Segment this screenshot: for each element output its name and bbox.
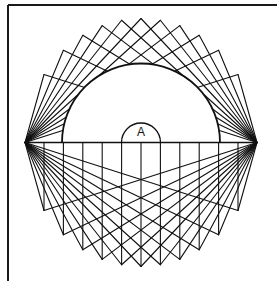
ray-right-lower bbox=[160, 143, 257, 265]
vertical-lines bbox=[44, 143, 238, 267]
ray-right-lower bbox=[122, 143, 257, 265]
ray-left-lower bbox=[25, 143, 199, 250]
ray-right-lower bbox=[83, 143, 257, 250]
ray-left-lower bbox=[25, 143, 160, 265]
ray-left-upper bbox=[25, 35, 199, 142]
diagram-frame: A bbox=[0, 0, 277, 281]
geometric-construction-diagram: A bbox=[0, 0, 277, 281]
ray-left-upper bbox=[25, 20, 122, 142]
ray-right-upper bbox=[83, 35, 257, 142]
ray-left-upper bbox=[25, 26, 180, 143]
ray-left-upper bbox=[25, 35, 83, 142]
ray-left-upper bbox=[25, 50, 219, 142]
ray-right-upper bbox=[199, 35, 257, 142]
ray-right-upper bbox=[63, 50, 257, 142]
label-a: A bbox=[137, 125, 145, 139]
ray-left-lower bbox=[25, 143, 122, 265]
ray-right-upper bbox=[160, 20, 257, 142]
ray-right-upper bbox=[102, 26, 257, 143]
